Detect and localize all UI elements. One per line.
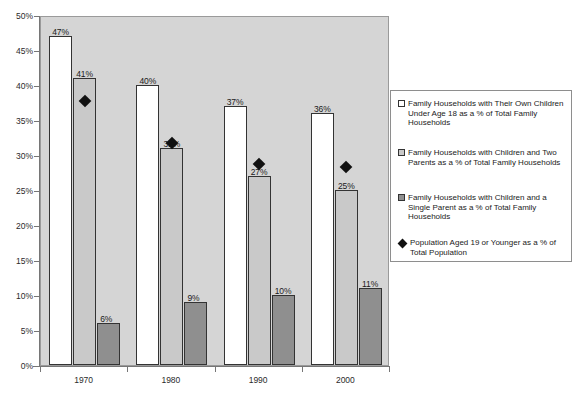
diamond-marker-population-2000: [340, 160, 353, 173]
x-axis-tick-label-1980: 1980: [131, 375, 211, 385]
y-axis-tick-label: 10%: [0, 290, 38, 302]
plot-area: 47%41%6%40%31%9%37%27%10%36%25%11%: [40, 16, 389, 366]
x-axis-tick-mark: [389, 367, 390, 372]
y-axis-tick-label: 45%: [0, 45, 38, 57]
bar-label-single-parent-1980: 9%: [187, 293, 199, 303]
bar-two-parents-1980: [160, 148, 183, 365]
y-axis-tick-mark: [34, 51, 39, 52]
bar-two-parents-2000: [335, 190, 358, 365]
light-gray-square-icon: [398, 149, 405, 156]
y-axis-tick-mark: [34, 331, 39, 332]
bar-label-own-children-2000: 36%: [314, 104, 331, 114]
chart-legend: Family Households with Their Own Childre…: [390, 90, 572, 262]
legend-item-label: Population Aged 19 or Younger as a % of …: [410, 238, 568, 257]
black-diamond-icon: [398, 239, 408, 249]
bar-own-children-1980: [136, 85, 159, 365]
legend-item-population-19-under[interactable]: Population Aged 19 or Younger as a % of …: [398, 238, 568, 257]
y-axis-tick-mark: [34, 86, 39, 87]
bar-label-two-parents-1970: 41%: [76, 69, 93, 79]
bar-two-parents-1970: [73, 78, 96, 365]
bar-label-single-parent-2000: 11%: [362, 279, 378, 289]
y-axis-tick-label: 15%: [0, 255, 38, 267]
x-axis-tick-mark: [215, 367, 216, 372]
chart-figure: 47%41%6%40%31%9%37%27%10%36%25%11% 0%5%1…: [0, 0, 578, 412]
legend-item-label: Family Households with Their Own Childre…: [408, 99, 568, 128]
bar-own-children-1990: [224, 106, 247, 365]
y-axis-line: [39, 16, 40, 367]
white-square-icon: [398, 100, 405, 107]
y-axis-tick-label: 25%: [0, 185, 38, 197]
bar-own-children-2000: [311, 113, 334, 365]
x-axis-tick-mark: [40, 367, 41, 372]
bar-label-own-children-1970: 47%: [52, 27, 69, 37]
x-axis-tick-mark: [127, 367, 128, 372]
x-axis-tick-label-1970: 1970: [44, 375, 124, 385]
y-axis-tick-label: 35%: [0, 115, 38, 127]
x-axis-tick-mark: [302, 367, 303, 372]
bar-single-parent-1970: [97, 323, 120, 365]
bar-label-own-children-1980: 40%: [139, 76, 156, 86]
x-axis-tick-label-2000: 2000: [305, 375, 385, 385]
x-axis-line: [33, 366, 390, 367]
bar-own-children-1970: [49, 36, 72, 365]
legend-item-label: Family Households with Children and a Si…: [408, 193, 568, 222]
y-axis-tick-mark: [34, 121, 39, 122]
bar-single-parent-1990: [272, 295, 295, 365]
bar-two-parents-1990: [248, 176, 271, 365]
legend-item-own-children[interactable]: Family Households with Their Own Childre…: [398, 99, 568, 128]
y-axis-tick-mark: [34, 296, 39, 297]
y-axis-tick-label: 40%: [0, 80, 38, 92]
legend-item-single-parent[interactable]: Family Households with Children and a Si…: [398, 193, 568, 222]
y-axis-tick-mark: [34, 366, 39, 367]
legend-item-label: Family Households with Children and Two …: [408, 148, 568, 167]
bar-label-single-parent-1970: 6%: [100, 314, 112, 324]
plot-inner: 47%41%6%40%31%9%37%27%10%36%25%11%: [41, 17, 388, 365]
y-axis-tick-label: 20%: [0, 220, 38, 232]
bar-label-single-parent-1990: 10%: [275, 286, 292, 296]
y-axis-tick-label: 0%: [0, 360, 38, 372]
bar-label-own-children-1990: 37%: [227, 97, 244, 107]
y-axis-tick-mark: [34, 226, 39, 227]
bar-single-parent-2000: [359, 288, 382, 365]
dark-gray-square-icon: [398, 194, 405, 201]
footer-text-artifact: [0, 404, 578, 412]
y-axis-tick-label: 50%: [0, 10, 38, 22]
legend-item-two-parents[interactable]: Family Households with Children and Two …: [398, 148, 568, 167]
bar-single-parent-1980: [184, 302, 207, 365]
y-axis-tick-mark: [34, 191, 39, 192]
bar-label-two-parents-2000: 25%: [338, 181, 355, 191]
y-axis-tick-mark: [34, 261, 39, 262]
y-axis-tick-label: 5%: [0, 325, 38, 337]
y-axis-tick-mark: [34, 156, 39, 157]
x-axis-tick-label-1990: 1990: [218, 375, 298, 385]
y-axis-tick-label: 30%: [0, 150, 38, 162]
y-axis-tick-mark: [34, 16, 39, 17]
